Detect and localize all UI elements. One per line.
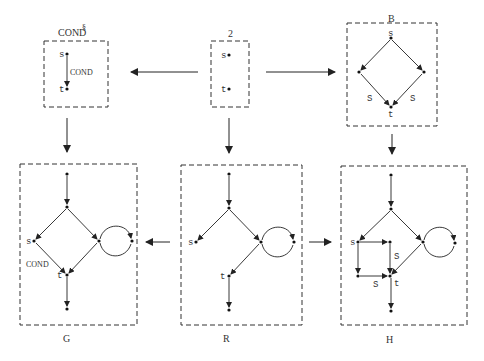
node-right [130, 239, 133, 242]
node-label-s: s [26, 237, 31, 247]
edge-label-s: S [410, 94, 415, 104]
node-right [422, 70, 425, 73]
panel-g: s t COND G [20, 164, 137, 344]
node-s [32, 239, 35, 242]
edge-label-s: S [394, 252, 399, 262]
node-label-s: s [350, 238, 355, 248]
node-left [357, 70, 360, 73]
edge-s [393, 74, 422, 105]
panel-box-r [181, 165, 302, 325]
edge [36, 209, 66, 239]
loop-edge [424, 227, 454, 240]
panel-box-h [341, 166, 467, 325]
edge-label-s: S [373, 280, 378, 290]
node-right [292, 240, 295, 243]
panel-box-two [211, 41, 249, 107]
node-sq-bl [356, 274, 359, 277]
node-label-t: t [221, 85, 226, 95]
edge [198, 210, 228, 240]
node-label-s: s [221, 51, 226, 61]
node-loop [259, 240, 262, 243]
node-bottom [389, 309, 392, 312]
panel-two: 2 s t [211, 28, 249, 107]
edge [68, 209, 97, 239]
node-sq-tr [388, 240, 391, 243]
node-t [65, 87, 68, 90]
node-top [389, 173, 392, 176]
loop-edge [424, 244, 454, 257]
edge [361, 40, 390, 70]
node-t [388, 274, 391, 277]
panel-superscript-cond: § [82, 23, 86, 32]
node-s [227, 53, 230, 56]
node-t [227, 274, 230, 277]
morphisms [67, 72, 392, 242]
diagram-canvas: COND § s t COND 2 s t B s t S S [0, 0, 484, 361]
node-s [356, 240, 359, 243]
node-branch [227, 206, 230, 209]
edge-label-cond: COND [26, 260, 49, 269]
loop-edge [262, 227, 293, 240]
node-t [227, 87, 230, 90]
node-s [194, 240, 197, 243]
panel-title-two: 2 [228, 28, 233, 39]
node-loop [97, 239, 100, 242]
node-loop [421, 240, 424, 243]
node-label-s: s [59, 50, 64, 60]
node-branch [65, 205, 68, 208]
node-branch [389, 207, 392, 210]
node-bottom [227, 308, 230, 311]
panel-cond: COND § s t COND [44, 23, 108, 107]
node-label-t: t [394, 279, 399, 289]
edge-label-s: S [367, 94, 372, 104]
node-label-t: t [57, 271, 62, 281]
edge-label-cond: COND [70, 68, 93, 77]
node-right [453, 241, 456, 244]
node-label-t: t [220, 272, 225, 282]
node-bottom [65, 307, 68, 310]
node-t [389, 105, 392, 108]
node-s [65, 52, 68, 55]
edge [230, 210, 259, 240]
node-top [227, 172, 230, 175]
panel-r: s t R [181, 165, 302, 344]
edge [231, 244, 259, 274]
panel-h: s t S S H [341, 166, 467, 345]
edge-s [361, 74, 389, 105]
node-label-t: t [59, 85, 64, 95]
node-t [65, 273, 68, 276]
panel-title-h: H [386, 334, 393, 345]
panel-title-g: G [63, 333, 70, 344]
edge [392, 211, 421, 240]
edge [360, 211, 390, 240]
node-top [65, 172, 68, 175]
panel-b: B s t S S [347, 13, 437, 126]
node-label-t: t [388, 110, 393, 120]
node-label-s: s [388, 29, 393, 39]
loop-edge [100, 226, 131, 239]
edge [392, 40, 422, 70]
loop-edge [100, 243, 131, 256]
node-label-s: s [188, 238, 193, 248]
loop-edge [262, 244, 293, 257]
panel-title-b: B [388, 13, 395, 24]
panel-title-r: R [223, 333, 230, 344]
edge [69, 243, 97, 273]
